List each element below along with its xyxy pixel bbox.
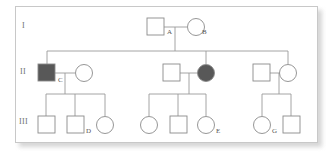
pedigree-figure: I II III A B C D E G [0,0,334,161]
generation-label-2: II [20,67,26,76]
pedigree-diagram [15,6,319,144]
symbol-male-unaffected-III-8[interactable] [283,116,300,133]
generation-label-1: I [22,21,25,30]
symbol-male-unaffected-I-1[interactable] [147,18,164,35]
individual-label-C: C [58,76,63,84]
individual-label-B: B [202,28,207,36]
individual-label-G: G [272,127,277,135]
generation-label-3: III [19,117,28,126]
individual-label-D: D [86,127,91,135]
individual-label-A: A [167,28,172,36]
symbol-female-affected-II-4[interactable] [198,65,215,82]
symbol-female-unaffected-III-4[interactable] [141,117,158,134]
symbol-female-unaffected-III-6[interactable] [198,117,215,134]
symbol-female-unaffected-II-2[interactable] [76,65,93,82]
symbol-male-unaffected-III-5[interactable] [170,116,187,133]
symbol-female-unaffected-III-7[interactable] [254,117,271,134]
symbol-male-affected-II-1[interactable] [38,64,55,81]
symbol-male-unaffected-III-2[interactable] [67,116,84,133]
symbol-male-unaffected-III-1[interactable] [38,116,55,133]
individual-label-E: E [216,127,220,135]
symbol-male-unaffected-II-3[interactable] [163,64,180,81]
symbol-female-unaffected-III-3[interactable] [97,117,114,134]
symbol-male-unaffected-II-5[interactable] [253,64,270,81]
symbol-female-unaffected-II-6[interactable] [280,65,297,82]
